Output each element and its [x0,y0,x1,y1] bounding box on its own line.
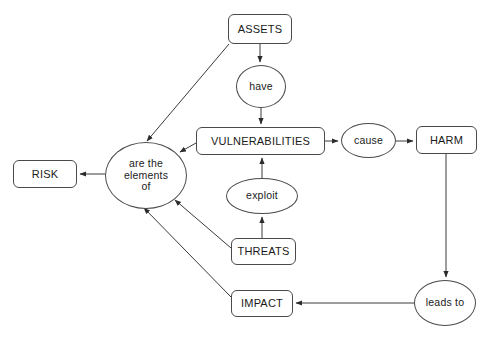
node-harm[interactable]: HARM [416,126,477,154]
node-assets-label: ASSETS [238,23,283,35]
node-vulnerabilities-label: VULNERABILITIES [211,135,310,147]
node-assets[interactable]: ASSETS [228,14,292,44]
node-harm-label: HARM [430,134,463,146]
node-leads-to[interactable]: leads to [414,280,476,326]
node-risk[interactable]: RISK [13,160,77,188]
node-risk-label: RISK [32,168,58,180]
node-cause-label: cause [354,135,383,147]
edge-vulnerabilities-elements [180,143,196,152]
node-have-label: have [249,81,273,93]
edge-threats-elements [175,200,231,248]
node-leads-to-label: leads to [426,297,464,309]
concept-map-diagram: ASSETS have VULNERABILITIES cause HARM R… [0,0,491,339]
node-vulnerabilities[interactable]: VULNERABILITIES [196,127,325,155]
node-exploit[interactable]: exploit [226,178,298,214]
edge-impact-elements [144,208,231,297]
node-are-the-elements-of[interactable]: are the elements of [105,142,187,209]
node-threats-label: THREATS [238,245,290,257]
node-exploit-label: exploit [246,190,278,202]
node-have[interactable]: have [236,65,286,108]
node-impact-label: IMPACT [241,297,283,309]
node-cause[interactable]: cause [341,123,396,158]
node-impact[interactable]: IMPACT [231,290,293,317]
node-are-the-elements-of-label: are the elements of [124,158,168,193]
node-threats[interactable]: THREATS [231,238,296,265]
